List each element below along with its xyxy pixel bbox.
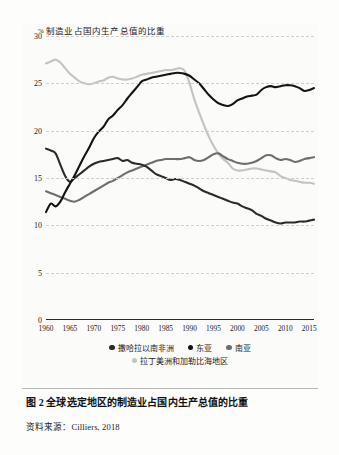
series-line-4 bbox=[46, 60, 314, 184]
legend-item-label: 东亚 bbox=[196, 342, 212, 353]
caption-divider bbox=[22, 388, 318, 389]
figure-caption: 图 2 全球选定地区的制造业占国内生产总值的比重 bbox=[26, 396, 318, 409]
x-axis-tick-label: 1970 bbox=[86, 324, 101, 333]
circle-marker-icon bbox=[188, 345, 194, 351]
legend-item[interactable]: 南亚 bbox=[226, 342, 251, 353]
y-axis-tick-label: 10 bbox=[34, 221, 42, 230]
y-axis-title: %制造业占国内生产总值的比重 bbox=[38, 24, 166, 36]
circle-marker-icon bbox=[132, 358, 138, 364]
series-line-2 bbox=[46, 73, 314, 212]
legend-row-primary: 撒哈拉以南非洲东亚南亚 bbox=[46, 342, 314, 353]
plot-area: 0510152025301960196519701975198019851990… bbox=[46, 36, 314, 320]
x-axis-tick-label: 1990 bbox=[182, 324, 197, 333]
chart-figure: %制造业占国内生产总值的比重 0510152025301960196519701… bbox=[22, 24, 318, 384]
x-axis-tick-label: 1960 bbox=[39, 324, 54, 333]
gridline bbox=[46, 225, 314, 226]
legend-item-label: 撒哈拉以南非洲 bbox=[118, 342, 174, 353]
x-axis-tick-label: 1975 bbox=[110, 324, 125, 333]
gridline bbox=[46, 131, 314, 132]
x-axis-tick-label: 2005 bbox=[254, 324, 269, 333]
circle-marker-icon bbox=[226, 345, 232, 351]
y-axis-tick-label: 25 bbox=[34, 79, 42, 88]
gridline bbox=[46, 36, 314, 37]
figure-page: %制造业占国内生产总值的比重 0510152025301960196519701… bbox=[0, 0, 339, 455]
legend-item-label: 南亚 bbox=[235, 342, 251, 353]
figure-source: 资料来源：Cilliers, 2018 bbox=[26, 420, 318, 432]
x-axis-tick-label: 2015 bbox=[302, 324, 317, 333]
legend-item[interactable]: 拉丁美洲和加勒比海地区 bbox=[132, 355, 229, 366]
y-axis-title-text: 制造业占国内生产总值的比重 bbox=[46, 26, 166, 36]
x-axis-tick-label: 1995 bbox=[206, 324, 221, 333]
gridline bbox=[46, 83, 314, 84]
legend-item-label: 拉丁美洲和加勒比海地区 bbox=[140, 355, 228, 366]
x-axis-tick-label: 2010 bbox=[278, 324, 293, 333]
y-axis-tick-label: 20 bbox=[34, 126, 42, 135]
gridline bbox=[46, 273, 314, 274]
y-axis-tick-label: 15 bbox=[34, 174, 42, 183]
x-axis-tick-label: 1980 bbox=[134, 324, 149, 333]
source-value: Cilliers, 2018 bbox=[72, 422, 120, 432]
chart-legend: 撒哈拉以南非洲东亚南亚 拉丁美洲和加勒比海地区 bbox=[46, 342, 314, 368]
legend-item[interactable]: 东亚 bbox=[188, 342, 213, 353]
gridline bbox=[46, 178, 314, 179]
x-axis-tick-label: 1985 bbox=[158, 324, 173, 333]
y-axis-tick-label: 5 bbox=[38, 268, 42, 277]
legend-item[interactable]: 撒哈拉以南非洲 bbox=[109, 342, 174, 353]
x-axis-tick-label: 2000 bbox=[230, 324, 245, 333]
source-label: 资料来源： bbox=[26, 422, 72, 432]
x-axis-tick-label: 1965 bbox=[63, 324, 78, 333]
y-axis-tick-label: 30 bbox=[34, 32, 42, 41]
circle-marker-icon bbox=[109, 345, 115, 351]
legend-row-secondary: 拉丁美洲和加勒比海地区 bbox=[46, 355, 314, 366]
